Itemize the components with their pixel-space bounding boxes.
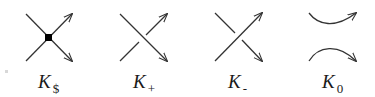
label-main: K (133, 71, 146, 92)
scan-artifact (5, 70, 8, 73)
label-subscript: 0 (337, 81, 344, 96)
singular-crossing-diagram (26, 14, 72, 61)
label-k-zero: K0 (322, 72, 343, 91)
label-main: K (38, 71, 51, 92)
smoothing-diagram (309, 13, 356, 61)
positive-crossing-diagram (120, 14, 167, 61)
singular-point-dot (45, 34, 52, 41)
negative-crossing-diagram (215, 13, 262, 61)
label-subscript: - (243, 81, 247, 96)
label-k-plus: K+ (133, 72, 155, 91)
label-main: K (322, 71, 335, 92)
label-k-minus: K- (228, 72, 247, 91)
label-main: K (228, 71, 241, 92)
label-subscript: $ (53, 81, 60, 96)
label-k-singular: K$ (38, 72, 59, 91)
label-subscript: + (148, 81, 155, 96)
